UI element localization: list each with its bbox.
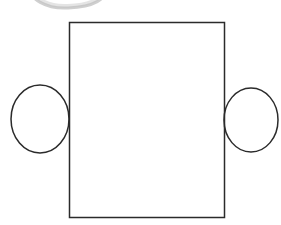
diagram-canvas (0, 0, 281, 225)
figure-svg (0, 0, 281, 225)
canvas-background (0, 0, 281, 225)
